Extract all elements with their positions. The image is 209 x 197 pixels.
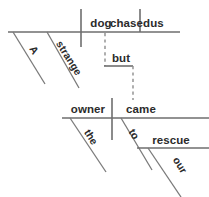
clause-1-group: dog chased us A strange [8, 9, 180, 88]
sentence-diagram-canvas: dog chased us A strange but owner came t… [0, 0, 209, 197]
word-chased: chased [110, 17, 150, 29]
word-but: but [112, 52, 130, 64]
word-our: our [171, 154, 190, 175]
word-came: came [126, 103, 156, 115]
word-a: A [27, 43, 41, 56]
modifier-the-slant-line [70, 118, 106, 172]
word-to: to [127, 126, 143, 141]
word-the: the [82, 127, 101, 147]
modifier-our-slant-line [148, 148, 181, 197]
word-us: us [150, 17, 164, 29]
sentence-diagram: dog chased us A strange but owner came t… [0, 0, 209, 197]
word-rescue: rescue [152, 134, 190, 146]
modifier-a-slant-line [13, 32, 45, 84]
word-dog: dog [90, 17, 111, 29]
word-owner: owner [71, 103, 106, 115]
clause-2-group: owner came the to rescue our [62, 98, 209, 197]
conjunction-group: but [104, 33, 133, 100]
